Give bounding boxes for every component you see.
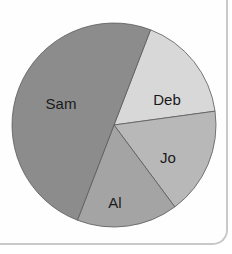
slice-label-sam: Sam — [46, 95, 77, 112]
slice-label-deb: Deb — [153, 91, 181, 108]
slice-label-jo: Jo — [160, 149, 176, 166]
slice-label-al: Al — [108, 194, 121, 211]
pie-chart: DebJoAlSam — [0, 0, 232, 254]
